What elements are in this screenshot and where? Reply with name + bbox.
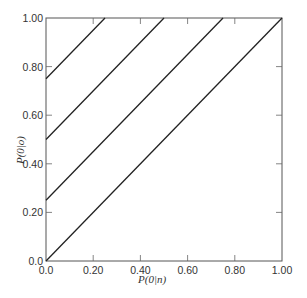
x-tick-label: 0.60 — [177, 264, 198, 276]
x-tick-label: 1.00 — [272, 264, 293, 276]
y-tick-label: 0.60 — [23, 109, 44, 121]
x-tick-label: 0.80 — [225, 264, 246, 276]
chart: 0.00.200.400.600.801.000.00.200.400.600.… — [0, 0, 307, 298]
y-tick-label: 0.20 — [23, 206, 44, 218]
y-tick-label: 0.80 — [23, 61, 44, 73]
y-tick-label: 1.00 — [23, 12, 44, 24]
x-axis-label: P(0|n) — [137, 273, 166, 286]
series-line-intercept-0.75 — [46, 18, 105, 79]
series-line-intercept-0.25 — [46, 18, 223, 200]
tick-labels: 0.00.200.400.600.801.000.00.200.400.600.… — [23, 12, 293, 276]
y-tick-label: 0.0 — [28, 255, 43, 267]
series-line-intercept-0.00 — [46, 18, 282, 261]
x-tick-label: 0.20 — [83, 264, 104, 276]
series-lines — [46, 18, 282, 261]
y-axis-label: P(0|o) — [14, 136, 27, 165]
series-line-intercept-0.50 — [46, 18, 164, 140]
